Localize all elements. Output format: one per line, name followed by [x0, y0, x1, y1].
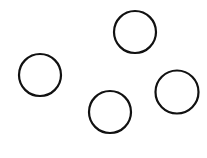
circle-top: [114, 11, 156, 53]
circles-diagram: [0, 0, 207, 158]
circle-left: [19, 54, 61, 96]
circle-right: [156, 71, 199, 114]
drawing-canvas: [0, 0, 207, 158]
circle-bottom: [89, 91, 131, 133]
